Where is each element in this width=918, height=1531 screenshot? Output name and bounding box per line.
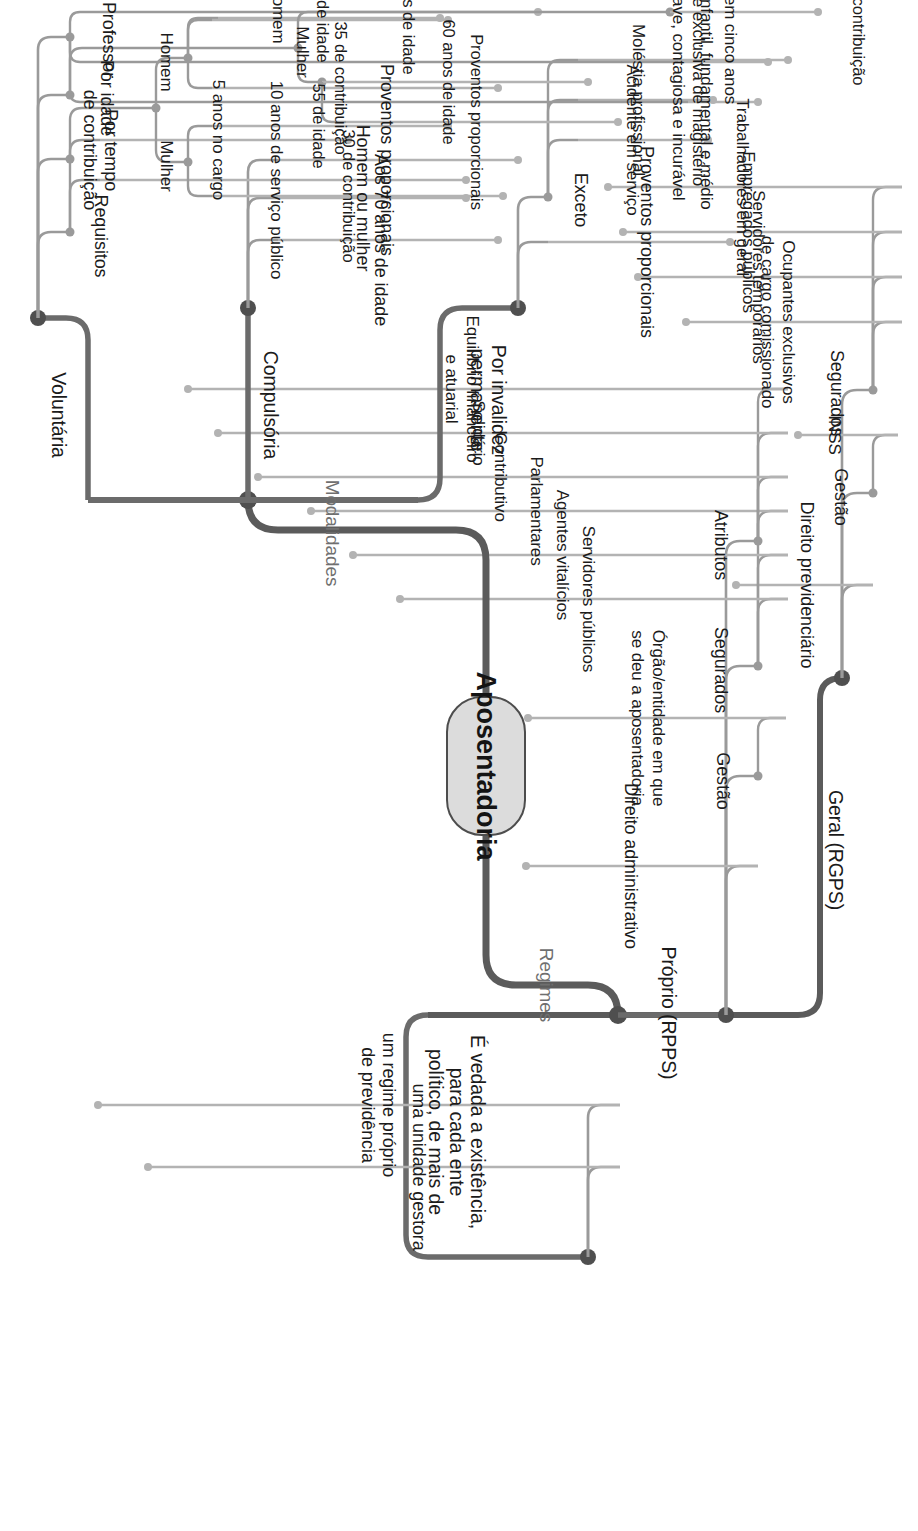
mindmap-canvas: Aposentadoria Regimes Modalidades Geral … (0, 0, 918, 1531)
node-orgao-entidade-aposentadoria[interactable]: Órgão/entidade em que se deu a aposentad… (627, 630, 669, 807)
node-idade-e-contribuicao[interactable]: Idade e contribuição (848, 0, 869, 85)
node-reducao-em-cinco-anos[interactable]: Redução em cinco anos (720, 0, 741, 104)
node-tempo-homem[interactable]: Homem (156, 32, 177, 91)
node-um-regime-proprio-previdencia[interactable]: um regime próprio de previdência (357, 1033, 399, 1177)
node-atributos[interactable]: Atributos (710, 510, 731, 580)
node-professor[interactable]: Professor (98, 2, 119, 78)
node-idade-proventos-proporcionais[interactable]: Proventos proporcionais (466, 34, 487, 210)
node-compulsoria-proventos-proporcionais[interactable]: Proventos proporcionais (376, 64, 397, 256)
node-segurados-rgps[interactable]: Segurados (826, 350, 847, 436)
node-parlamentares[interactable]: Parlamentares (526, 456, 547, 565)
node-servidores-publicos[interactable]: Servidores públicos (578, 526, 599, 672)
node-compulsoria[interactable]: Compulsória (260, 351, 281, 459)
node-tempo-mulher-55-idade[interactable]: 55 de idade (308, 83, 329, 168)
node-trabalhadores-em-geral[interactable]: Trabalhadores em geral (732, 98, 753, 276)
node-agentes-vitalicios[interactable]: Agentes vitalícios (552, 490, 573, 621)
branch-label-regimes[interactable]: Regimes (536, 948, 557, 1022)
node-idade-mulher-60-anos[interactable]: 60 anos de idade (438, 19, 459, 144)
node-proprio-rpps[interactable]: Próprio (RPPS) (658, 947, 679, 1080)
node-idade-homem[interactable]: Homem (268, 0, 289, 44)
central-node-label: Aposentadoria (471, 671, 502, 860)
node-tempo-mulher[interactable]: Mulher (156, 140, 177, 191)
node-exceto[interactable]: Exceto (570, 173, 591, 227)
node-idade-mulher[interactable]: Mulher (292, 26, 313, 77)
node-segurados-rpps[interactable]: Segurados (710, 627, 731, 713)
node-infantil-fundamental-medio[interactable]: Infantil, fundamental e médio (696, 0, 717, 210)
node-10-anos-servico-publico[interactable]: 10 anos de serviço público (266, 81, 287, 280)
mindmap-rotated-layer: Aposentadoria Regimes Modalidades Geral … (0, 0, 918, 1531)
node-direito-administrativo[interactable]: Direito administrativo (620, 783, 641, 949)
node-doenca-grave-contagiosa-incuravel[interactable]: Doença grave, contagiosa e incurável (668, 0, 689, 200)
branch-label-modalidades[interactable]: Modalidades (322, 480, 343, 587)
node-voluntaria[interactable]: Voluntária (48, 372, 69, 458)
node-direito-previdenciario[interactable]: Direito previdenciário (796, 502, 817, 669)
central-node[interactable]: Aposentadoria (446, 696, 526, 836)
node-por-invalidez-permanente[interactable]: Por invalidez permanente (467, 345, 509, 455)
node-geral-rgps[interactable]: Geral (RGPS) (825, 790, 846, 910)
node-molestia-profissional[interactable]: Moléstia profissional (628, 24, 649, 176)
node-tempo-mulher-30-contribuicao[interactable]: 30 de contribuição (338, 129, 359, 262)
node-vedada-existencia[interactable]: É vedada a existência, para cada ente po… (425, 1035, 488, 1229)
node-uma-unidade-gestora[interactable]: uma unidade gestora (408, 1083, 429, 1250)
node-5-anos-no-cargo[interactable]: 5 anos no cargo (208, 80, 229, 200)
node-gestao-rpps[interactable]: Gestão (712, 752, 733, 809)
node-idade-homem-65-anos[interactable]: 65 anos de idade (398, 0, 419, 75)
node-gestao-rgps[interactable]: Gestão (830, 468, 851, 525)
